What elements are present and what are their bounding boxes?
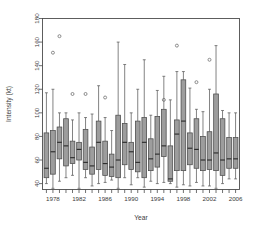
box-body (129, 142, 134, 169)
box-body (220, 119, 225, 176)
box-item (201, 112, 206, 186)
outlier-point (175, 44, 178, 47)
y-axis-title: Intensity (kt) (5, 86, 13, 122)
box-body (90, 147, 95, 174)
box-item (142, 60, 147, 187)
box-item (168, 100, 173, 184)
outlier-point (58, 35, 61, 38)
box-item (207, 58, 212, 186)
x-tick-label: 1986 (98, 195, 112, 202)
y-tick-label: 100 (33, 107, 40, 118)
x-tick-label: 2006 (229, 195, 243, 202)
box-item (90, 114, 95, 186)
y-tick-label: 80 (33, 132, 40, 139)
y-tick-label: 140 (33, 60, 40, 71)
box-body (70, 141, 75, 163)
box-body (83, 129, 88, 169)
box-item (57, 35, 62, 182)
x-tick-label: 2002 (203, 195, 217, 202)
y-tick-label: 60 (33, 156, 40, 163)
y-tick-label: 120 (33, 84, 40, 95)
box-body (181, 80, 186, 171)
plot-area: 406080100120140160180 197819821986199019… (0, 0, 258, 233)
box-item (51, 51, 56, 188)
box-item (129, 113, 134, 185)
box-item (122, 64, 127, 177)
box-body (51, 131, 56, 175)
box-body (122, 123, 127, 164)
box-item (161, 76, 166, 182)
box-item (155, 90, 160, 183)
outlier-point (84, 92, 87, 95)
box-body (168, 146, 173, 181)
x-axis: 19781982198619901994199820022006 (46, 190, 243, 203)
box-body (57, 127, 62, 159)
box-item (194, 81, 199, 183)
box-body (135, 121, 140, 172)
box-body (207, 132, 212, 170)
box-body (148, 139, 153, 171)
box-item (96, 86, 101, 184)
outlier-point (51, 51, 54, 54)
box-body (155, 116, 160, 167)
x-tick-label: 1982 (72, 195, 86, 202)
y-tick-label: 180 (33, 13, 40, 24)
x-tick-label: 1998 (177, 195, 191, 202)
box-body (116, 115, 121, 178)
box-body (194, 119, 199, 169)
outlier-point (104, 96, 107, 99)
box-body (103, 141, 108, 175)
box-item (83, 92, 88, 177)
x-axis-title: Year (134, 214, 148, 221)
box-body (201, 136, 206, 170)
x-tick-label: 1978 (46, 195, 60, 202)
box-body (77, 142, 82, 160)
box-item (148, 115, 153, 181)
box-item (103, 96, 108, 182)
box-item (70, 92, 75, 175)
box-item (64, 113, 69, 178)
box-body (161, 109, 166, 156)
box-item (227, 113, 232, 179)
box-item (188, 88, 193, 186)
outlier-point (208, 58, 211, 61)
y-tick-label: 40 (33, 180, 40, 187)
box-body (96, 121, 101, 169)
box-body (142, 118, 147, 178)
outlier-point (71, 92, 74, 95)
box-body (188, 133, 193, 165)
box-item (214, 46, 219, 189)
box-body (233, 138, 238, 169)
box-item (233, 113, 238, 179)
box-series (44, 35, 238, 189)
x-tick-label: 1994 (150, 195, 164, 202)
x-tick-label: 1990 (124, 195, 138, 202)
box-item (116, 42, 121, 188)
box-body (214, 94, 219, 171)
box-item (44, 93, 49, 184)
box-body (227, 138, 232, 169)
box-item (77, 113, 82, 188)
box-body (175, 120, 180, 171)
box-body (64, 119, 69, 166)
outlier-point (195, 81, 198, 84)
boxplot-chart: 406080100120140160180 197819821986199019… (0, 0, 258, 233)
y-tick-label: 160 (33, 36, 40, 47)
y-axis: 406080100120140160180 (33, 13, 43, 187)
box-body (44, 133, 49, 178)
box-item (181, 72, 186, 185)
box-item (135, 89, 140, 177)
box-item (109, 131, 114, 181)
box-item (220, 110, 225, 183)
box-item (175, 44, 180, 187)
box-body (109, 154, 114, 176)
